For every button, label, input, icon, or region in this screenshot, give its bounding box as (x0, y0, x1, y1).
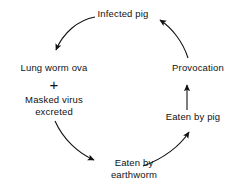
node-eaten-by-earthworm: Eaten by earthworm (88, 157, 180, 180)
node-infected-pig: Infected pig (68, 8, 178, 20)
node-infected-pig-line-1: Infected pig (68, 8, 178, 20)
node-provocation-line-1: Provocation (155, 62, 236, 74)
plus-symbol: + (4, 77, 104, 92)
node-masked-virus-excreted-line-1: Masked virus (4, 94, 104, 106)
node-lung-worm-ova-line-1: Lung worm ova (4, 62, 104, 74)
node-eaten-by-earthworm-line-2: earthworm (88, 169, 180, 181)
cycle-diagram: Infected pig Lung worm ova + Masked viru… (0, 0, 236, 187)
arrow-provocation-to-infected-pig (160, 20, 188, 58)
node-eaten-by-pig: Eaten by pig (150, 111, 236, 123)
node-masked-virus-excreted: Masked virus excreted (4, 94, 104, 117)
arrow-masked-virus-to-eaten-by-earthworm (55, 121, 94, 160)
node-masked-virus-excreted-line-2: excreted (4, 106, 104, 118)
node-eaten-by-pig-line-1: Eaten by pig (150, 111, 236, 123)
arrow-infected-pig-to-lung-worm-ova (56, 17, 95, 50)
node-lung-worm-ova: Lung worm ova (4, 62, 104, 74)
node-provocation: Provocation (155, 62, 236, 74)
node-eaten-by-earthworm-line-1: Eaten by (88, 157, 180, 169)
